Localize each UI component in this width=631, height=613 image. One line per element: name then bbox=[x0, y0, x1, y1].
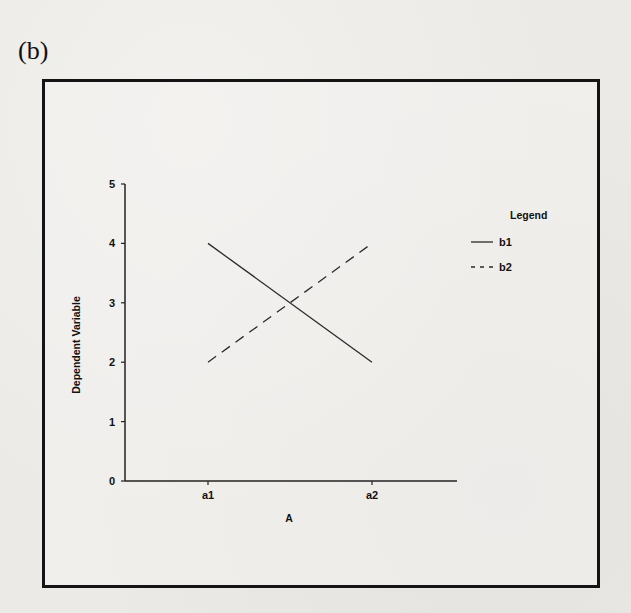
line-chart: 5 4 3 2 1 0 Dependent Variable a1 a2 A L… bbox=[0, 0, 631, 613]
y-tick-labels: 5 4 3 2 1 0 bbox=[109, 178, 116, 487]
y-tick-label: 3 bbox=[109, 297, 115, 309]
y-tick-label: 1 bbox=[109, 416, 115, 428]
legend-b2-label: b2 bbox=[499, 261, 512, 273]
x-tick-label-a2: a2 bbox=[366, 489, 378, 501]
legend: Legend b1 b2 bbox=[471, 209, 547, 273]
y-tick-label: 4 bbox=[109, 237, 116, 249]
legend-b1-label: b1 bbox=[499, 236, 512, 248]
legend-title: Legend bbox=[510, 209, 547, 221]
y-tick-label: 0 bbox=[109, 475, 115, 487]
x-tick-label-a1: a1 bbox=[202, 489, 214, 501]
y-axis-title: Dependent Variable bbox=[70, 296, 82, 394]
x-axis-title: A bbox=[285, 512, 293, 524]
y-tick-label: 2 bbox=[109, 356, 115, 368]
y-tick-label: 5 bbox=[109, 178, 115, 190]
